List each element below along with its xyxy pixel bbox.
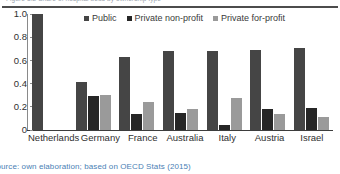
x-axis-label: Israel	[291, 133, 333, 143]
bar[interactable]	[207, 51, 218, 130]
clipped-caption-strip: Source: own elaboration; based on OECD S…	[0, 163, 340, 174]
x-axis-label: Germany	[79, 133, 121, 143]
bar[interactable]	[262, 109, 273, 130]
clipped-header-text: Figure 3.2 Share of hospital beds by own…	[6, 0, 161, 2]
x-axis-label: Austria	[248, 133, 290, 143]
clipped-header-strip: Figure 3.2 Share of hospital beds by own…	[0, 0, 340, 9]
horizontal-rule	[2, 6, 338, 8]
chart-figure: PublicPrivate non-profitPrivate for-prof…	[0, 9, 340, 163]
bar[interactable]	[219, 125, 230, 130]
bar[interactable]	[318, 117, 329, 130]
bar-group	[289, 14, 333, 130]
bar[interactable]	[32, 14, 43, 130]
bar-group	[28, 14, 72, 130]
x-axis-label: Australia	[164, 133, 206, 143]
chart-plot-area: 00.20.40.60.81.0	[27, 14, 333, 131]
bar[interactable]	[76, 82, 87, 130]
bar-group	[115, 14, 159, 130]
bar[interactable]	[306, 108, 317, 130]
bar-group	[159, 14, 203, 130]
bar[interactable]	[250, 50, 261, 130]
bar-group	[202, 14, 246, 130]
bar[interactable]	[131, 114, 142, 130]
bar-group	[72, 14, 116, 130]
bar-group	[246, 14, 290, 130]
x-axis-labels: NetherlandsGermanyFranceAustraliaItalyAu…	[28, 133, 333, 143]
x-axis-label: Italy	[206, 133, 248, 143]
bar[interactable]	[294, 48, 305, 130]
x-axis-label: France	[122, 133, 164, 143]
bar[interactable]	[143, 102, 154, 130]
bar[interactable]	[175, 113, 186, 130]
source-caption: Source: own elaboration; based on OECD S…	[0, 163, 191, 171]
bar[interactable]	[274, 114, 285, 130]
bar[interactable]	[119, 57, 130, 130]
bar[interactable]	[88, 96, 99, 130]
bar-groups	[28, 14, 333, 130]
bar[interactable]	[100, 95, 111, 130]
bar[interactable]	[163, 51, 174, 130]
bar[interactable]	[231, 98, 242, 130]
bar[interactable]	[187, 109, 198, 130]
x-axis-label: Netherlands	[28, 133, 79, 143]
